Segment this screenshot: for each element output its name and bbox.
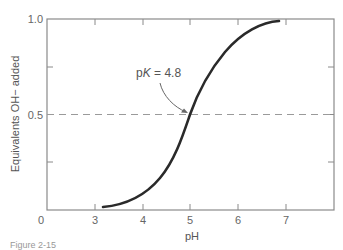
figure-caption: Figure 2-15 xyxy=(10,240,56,250)
arrowhead-icon xyxy=(181,109,188,114)
x-tick-label-5: 5 xyxy=(187,214,193,226)
x-tick-label-4: 4 xyxy=(140,214,146,226)
x-tick-label-0: 0 xyxy=(38,214,44,226)
x-ticks-top xyxy=(95,19,286,25)
x-ticks-bottom xyxy=(95,204,286,210)
y-tick-label-1: 1.0 xyxy=(28,13,43,25)
y-axis-label: Equivalents OH− added xyxy=(9,56,21,173)
x-tick-label-3: 3 xyxy=(92,214,98,226)
x-tick-label-7: 7 xyxy=(283,214,289,226)
x-axis-label: pH xyxy=(185,230,199,242)
pk-annotation-label: pK = 4.8 xyxy=(136,66,181,80)
x-tick-label-6: 6 xyxy=(235,214,241,226)
pk-annotation-arrow xyxy=(160,83,186,112)
y-tick-label-05: 0.5 xyxy=(28,109,43,121)
